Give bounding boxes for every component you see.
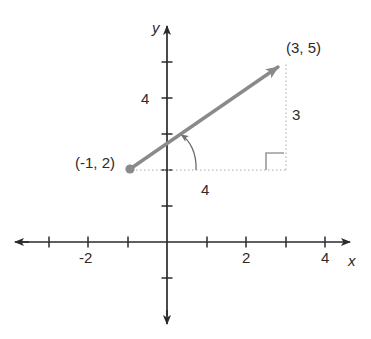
tail-dot <box>125 164 134 173</box>
head-point-label: (3, 5) <box>286 40 321 55</box>
right-angle-marker <box>266 153 284 170</box>
y-axis-label: y <box>152 20 160 35</box>
x-tick-label-2: 2 <box>242 250 250 265</box>
run-label: 4 <box>201 182 209 197</box>
x-tick-label-neg2: -2 <box>79 250 92 265</box>
y-tick-label-4: 4 <box>141 91 149 106</box>
rise-label: 3 <box>292 107 300 122</box>
diagram-canvas: y x -2 2 4 4 (-1, 2) (3, 5) 4 3 <box>0 0 371 339</box>
x-tick-label-4: 4 <box>321 250 329 265</box>
x-axis-label: x <box>348 253 356 268</box>
direction-angle-arc <box>182 135 197 170</box>
displacement-vector <box>125 67 278 174</box>
x-axis <box>15 237 350 248</box>
vector-shaft <box>130 67 278 169</box>
y-axis <box>162 26 173 324</box>
tail-point-label: (-1, 2) <box>75 155 115 170</box>
